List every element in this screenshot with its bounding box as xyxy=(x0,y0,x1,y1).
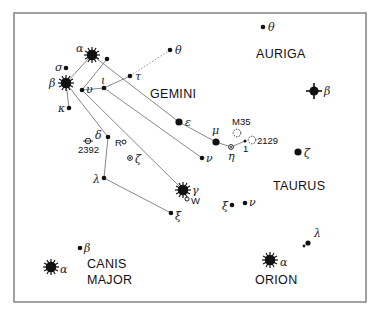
label-gemini: GEMINI xyxy=(150,87,196,101)
star-gem-rho xyxy=(105,57,110,62)
star-gem-nu: ν xyxy=(200,152,213,165)
star-label: ε xyxy=(185,116,191,129)
star-icon xyxy=(128,74,133,79)
star-ori-alpha: α xyxy=(262,252,288,269)
star-gem-1: 1 xyxy=(243,140,248,155)
star-gem-sigma: σ xyxy=(55,61,68,74)
star-label: ν xyxy=(249,196,256,209)
chart-frame xyxy=(14,13,366,302)
star-icon xyxy=(200,156,205,161)
open-cluster-icon xyxy=(233,129,241,137)
star-icon xyxy=(80,88,85,93)
deep-sky-label: M35 xyxy=(232,116,250,127)
star-gem-xi: ξ xyxy=(169,210,182,223)
star-label: λ xyxy=(313,227,321,240)
star-icon xyxy=(168,48,173,53)
star-icon xyxy=(294,148,301,155)
star-icon xyxy=(102,176,107,181)
deep-sky-r-gem: R xyxy=(115,137,126,148)
star-label: μ xyxy=(212,124,219,137)
star-label: β xyxy=(83,242,90,255)
label-auriga: AURIGA xyxy=(256,47,306,61)
constellation-line-gem-delta-gem-lambda xyxy=(104,137,108,178)
star-gem-kappa: κ xyxy=(57,102,71,115)
star-gem-epsilon: ε xyxy=(175,116,191,129)
variable-star-icon xyxy=(185,197,189,201)
star-label: ζ xyxy=(304,147,311,160)
star-icon xyxy=(78,246,83,251)
star-ori-lambda: λ xyxy=(303,227,321,247)
star-label: κ xyxy=(57,102,66,115)
label-canis: CANIS xyxy=(87,257,127,271)
star-label: θ xyxy=(268,21,275,34)
star-icon xyxy=(230,203,235,208)
star-label: δ xyxy=(95,129,102,142)
star-label: ζ xyxy=(135,153,142,166)
star-gem-zeta: ζ xyxy=(128,153,142,166)
star-icon xyxy=(64,66,69,71)
star-tau-nu: ν xyxy=(243,196,256,209)
star-gem-mu: μ xyxy=(212,124,220,146)
star-label: γ xyxy=(192,184,199,197)
bright-star-icon xyxy=(46,262,56,272)
star-icon xyxy=(105,57,110,62)
star-tau-zeta: ζ xyxy=(294,147,311,160)
star-tau-xi: ξ xyxy=(222,200,234,213)
deep-sky-label: R xyxy=(115,137,122,148)
star-gem-tau: τ xyxy=(128,70,142,83)
star-label: ι xyxy=(101,74,105,87)
star-icon xyxy=(175,118,182,125)
deep-sky-label: 2129 xyxy=(257,135,278,146)
star-gem-eta: η xyxy=(228,145,235,163)
open-cluster-icon xyxy=(248,136,256,144)
star-cma-alpha: α xyxy=(43,259,68,276)
star-aur-theta: θ xyxy=(261,21,275,34)
star-icon xyxy=(243,201,248,206)
star-label: θ xyxy=(175,44,182,57)
bright-star-icon xyxy=(61,78,71,88)
star-label: λ xyxy=(92,173,100,186)
star-aur-beta: β xyxy=(306,83,330,99)
label-taurus: TAURUS xyxy=(273,179,325,193)
deep-sky-label: 2392 xyxy=(78,144,99,155)
deep-sky-m35: M35 xyxy=(232,116,250,137)
star-cma-beta: β xyxy=(78,242,91,255)
star-label: α xyxy=(60,263,68,276)
star-gem-gamma: γ xyxy=(175,182,199,198)
star-label: ξ xyxy=(175,210,182,223)
constellation-line-gem-lambda-gem-xi xyxy=(104,178,171,213)
variable-star-icon xyxy=(122,140,126,144)
constellation-line-gem-beta-gem-alpha xyxy=(66,55,92,83)
star-icon xyxy=(106,135,111,140)
star-icon xyxy=(261,25,266,30)
star-icon xyxy=(67,106,72,111)
star-label: 1 xyxy=(243,143,248,154)
double-star-icon xyxy=(305,240,310,245)
star-label: ξ xyxy=(222,200,229,213)
constellation-line-gem-iota-gem-tau xyxy=(104,76,130,88)
star-label: α xyxy=(76,42,84,55)
star-label: α xyxy=(280,256,288,269)
star-gem-theta: θ xyxy=(168,44,182,57)
star-label: η xyxy=(228,150,235,163)
star-icon xyxy=(169,211,174,216)
bright-star-icon xyxy=(265,255,275,265)
deep-sky-ngc2129: 2129 xyxy=(248,135,278,146)
bright-star-icon xyxy=(178,185,188,195)
label-orion: ORION xyxy=(255,273,297,287)
star-gem-upsilon: υ xyxy=(80,83,93,96)
star-label: σ xyxy=(55,61,63,74)
constellation-labels: GEMINI AURIGA TAURUS CANIS MAJOR ORION xyxy=(87,47,325,287)
label-major: MAJOR xyxy=(87,273,132,287)
star-label: β xyxy=(323,85,330,98)
bright-star-icon xyxy=(309,86,318,95)
star-icon xyxy=(212,138,219,145)
star-label: ν xyxy=(206,152,213,165)
star-gem-iota: ι xyxy=(101,74,106,90)
star-label: υ xyxy=(86,83,93,96)
star-label: β xyxy=(48,77,55,90)
bright-star-icon xyxy=(87,50,97,60)
star-chart: M3521292392RW αβσκυιτθεμη1νδζλγξθβζξνλαβ… xyxy=(0,0,378,313)
star-label: τ xyxy=(135,70,142,83)
